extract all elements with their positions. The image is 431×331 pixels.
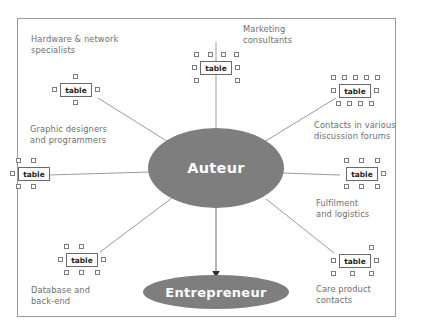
table-node-label: table	[200, 61, 232, 75]
handle-icon[interactable]	[52, 87, 57, 92]
center-node-auteur[interactable]: Auteur	[148, 128, 284, 208]
handle-icon[interactable]	[381, 171, 386, 176]
handle-icon[interactable]	[208, 52, 213, 57]
handle-icon[interactable]	[58, 257, 63, 262]
handle-icon[interactable]	[331, 75, 336, 80]
handle-icon[interactable]	[353, 75, 358, 80]
table-node-label: table	[60, 83, 92, 97]
handle-icon[interactable]	[350, 271, 355, 276]
table-node-label: table	[339, 254, 371, 268]
connector-hardware	[98, 98, 170, 143]
handle-icon[interactable]	[375, 184, 380, 189]
handle-icon[interactable]	[95, 270, 100, 275]
handle-icon[interactable]	[194, 52, 199, 57]
handle-icon[interactable]	[31, 184, 36, 189]
table-node-label: table	[66, 253, 98, 267]
handle-icon[interactable]	[73, 100, 78, 105]
handle-icon[interactable]	[95, 87, 100, 92]
handle-icon[interactable]	[16, 158, 21, 163]
table-node-label: table	[346, 167, 378, 181]
connector-fulfilment	[282, 173, 340, 175]
handle-icon[interactable]	[364, 75, 369, 80]
handle-icon[interactable]	[369, 271, 374, 276]
handle-icon[interactable]	[73, 74, 78, 79]
handle-icon[interactable]	[192, 65, 197, 70]
handle-icon[interactable]	[31, 158, 36, 163]
handle-icon[interactable]	[331, 258, 336, 263]
handle-icon[interactable]	[344, 158, 349, 163]
handle-icon[interactable]	[234, 52, 239, 57]
label-hardware: Hardware & network specialists	[31, 34, 118, 56]
handle-icon[interactable]	[359, 184, 364, 189]
label-marketing: Marketing consultants	[243, 24, 292, 46]
handle-icon[interactable]	[369, 245, 374, 250]
diagram-canvas: Auteur Entrepreneur Hardware & network s…	[0, 0, 431, 331]
handle-icon[interactable]	[64, 244, 69, 249]
connector-database	[100, 198, 172, 252]
handle-icon[interactable]	[374, 258, 379, 263]
handle-icon[interactable]	[194, 78, 199, 83]
handle-icon[interactable]	[336, 101, 341, 106]
handle-icon[interactable]	[16, 184, 21, 189]
table-node-label: table	[339, 84, 371, 98]
handle-icon[interactable]	[374, 88, 379, 93]
handle-icon[interactable]	[331, 88, 336, 93]
handle-icon[interactable]	[358, 101, 363, 106]
target-node-label: Entrepreneur	[165, 285, 266, 300]
label-graphic: Graphic designers and programmers	[30, 124, 107, 146]
center-node-label: Auteur	[187, 160, 245, 176]
handle-icon[interactable]	[235, 65, 240, 70]
handle-icon[interactable]	[331, 271, 336, 276]
handle-icon[interactable]	[359, 158, 364, 163]
connector-graphic	[48, 172, 150, 175]
label-forums: Contacts in various discussion forums	[314, 120, 396, 142]
handle-icon[interactable]	[221, 52, 226, 57]
handle-icon[interactable]	[375, 158, 380, 163]
handle-icon[interactable]	[101, 257, 106, 262]
handle-icon[interactable]	[375, 75, 380, 80]
label-care: Care product contacts	[316, 284, 371, 306]
handle-icon[interactable]	[342, 75, 347, 80]
handle-icon[interactable]	[344, 184, 349, 189]
handle-icon[interactable]	[10, 171, 15, 176]
target-node-entrepreneur[interactable]: Entrepreneur	[143, 275, 289, 309]
handle-icon[interactable]	[369, 101, 374, 106]
handle-icon[interactable]	[79, 244, 84, 249]
table-node-label: table	[18, 167, 50, 181]
handle-icon[interactable]	[64, 270, 69, 275]
handle-icon[interactable]	[347, 101, 352, 106]
handle-icon[interactable]	[235, 78, 240, 83]
label-fulfilment: Fulfilment and logistics	[316, 198, 369, 220]
handle-icon[interactable]	[79, 270, 84, 275]
label-database: Database and back-end	[31, 285, 90, 307]
